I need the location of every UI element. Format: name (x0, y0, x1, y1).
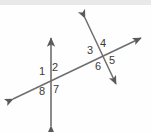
angle-label-6: 6 (95, 61, 101, 72)
angle-label-1: 1 (39, 66, 45, 77)
geometry-lines-svg (0, 0, 151, 132)
angle-label-8: 8 (39, 86, 45, 97)
angle-label-5: 5 (109, 55, 115, 66)
geometry-diagram: 1 2 8 7 3 4 6 5 (0, 0, 151, 132)
angle-label-4: 4 (100, 38, 106, 49)
transversal-line (13, 38, 141, 99)
angle-label-3: 3 (87, 45, 93, 56)
angle-label-7: 7 (53, 84, 59, 95)
angle-label-2: 2 (52, 62, 58, 73)
